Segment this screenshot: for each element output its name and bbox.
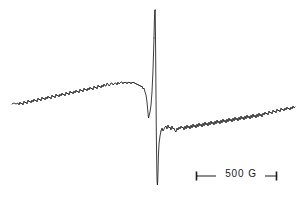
epr-spectrum-figure: 500 G (0, 0, 305, 197)
trace-right-wing (161, 106, 295, 132)
trace-sharp-peak-fall (155, 10, 161, 185)
trace-left-wing (12, 38, 154, 118)
scalebar-label: 500 G (218, 168, 264, 180)
